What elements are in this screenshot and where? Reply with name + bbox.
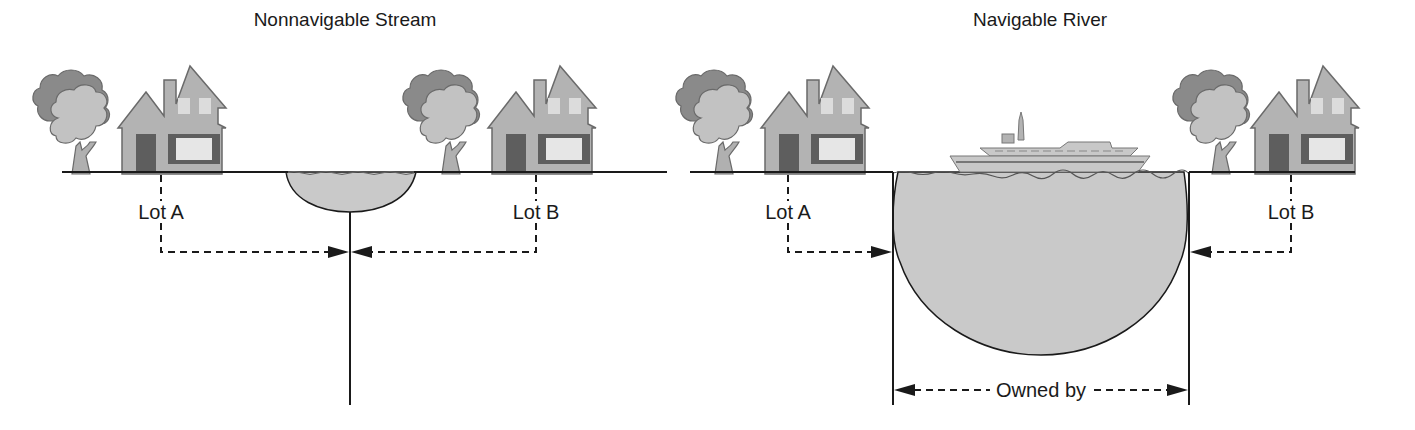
arrow-right-icon xyxy=(328,246,349,258)
diagram-canvas xyxy=(0,0,1415,430)
house-icon xyxy=(761,66,869,174)
arrow-right-icon xyxy=(871,246,892,258)
lot-b-label: Lot B xyxy=(511,201,562,223)
house-icon xyxy=(488,66,596,174)
owned-by-label: Owned by xyxy=(990,379,1092,401)
tree-icon xyxy=(676,70,753,174)
arrow-left-icon xyxy=(1190,246,1211,258)
tree-icon xyxy=(33,70,110,174)
river-water xyxy=(893,172,1187,355)
diagram-title-navigable: Navigable River xyxy=(973,9,1107,31)
tree-icon xyxy=(403,70,480,174)
house-icon xyxy=(1251,66,1359,174)
arrow-right-icon xyxy=(1167,384,1188,396)
navigable-river-diagram xyxy=(676,66,1359,405)
tree-icon xyxy=(1173,70,1250,174)
diagram-title-nonnavigable: Nonnavigable Stream xyxy=(254,9,437,31)
stream-water xyxy=(286,172,416,212)
nonnavigable-stream-diagram xyxy=(33,66,667,405)
ship-icon xyxy=(950,112,1150,172)
lot-a-label: Lot A xyxy=(763,201,813,223)
house-icon xyxy=(118,66,226,174)
arrow-left-icon xyxy=(894,384,915,396)
arrow-left-icon xyxy=(351,246,372,258)
lot-a-label: Lot A xyxy=(136,201,186,223)
lot-b-label: Lot B xyxy=(1266,201,1317,223)
